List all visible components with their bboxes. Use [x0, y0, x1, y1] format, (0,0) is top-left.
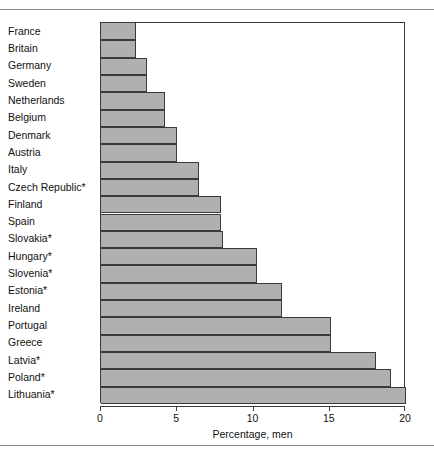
bar [101, 162, 199, 179]
category-label: Spain [8, 215, 88, 227]
x-tick-label: 20 [399, 412, 411, 425]
bar [101, 179, 199, 196]
bar [101, 196, 221, 213]
bar [101, 144, 177, 161]
category-label: Germany [8, 59, 88, 71]
x-tick-label: 5 [173, 412, 179, 425]
category-label: Latvia* [8, 354, 88, 366]
bar [101, 317, 331, 334]
bottom-divider-rule [0, 445, 434, 446]
bar [101, 300, 282, 317]
category-label-column: FranceBritainGermanySwedenNetherlandsBel… [0, 22, 96, 403]
category-label: Estonia* [8, 284, 88, 296]
bar [101, 387, 406, 404]
category-label: Hungary* [8, 250, 88, 262]
category-label: Austria [8, 146, 88, 158]
category-label: Denmark [8, 129, 88, 141]
bar [101, 231, 223, 248]
bar [101, 352, 376, 369]
category-label: Netherlands [8, 94, 88, 106]
bar [101, 75, 147, 92]
bar [101, 127, 177, 144]
bar-chart-figure: FranceBritainGermanySwedenNetherlandsBel… [0, 0, 434, 454]
category-label: Britain [8, 42, 88, 54]
x-tick-label: 10 [247, 412, 259, 425]
category-label: Poland* [8, 371, 88, 383]
bar [101, 248, 257, 265]
top-divider-rule [0, 9, 434, 10]
category-label: Finland [8, 198, 88, 210]
category-label: Czech Republic* [8, 181, 88, 193]
category-label: Slovenia* [8, 267, 88, 279]
bar [101, 23, 136, 40]
x-tick-mark [253, 406, 254, 411]
bar [101, 283, 282, 300]
category-label: Italy [8, 163, 88, 175]
bar [101, 40, 136, 57]
bar [101, 369, 391, 386]
category-label: Portugal [8, 319, 88, 331]
category-label: Ireland [8, 302, 88, 314]
bar [101, 110, 165, 127]
bar [101, 92, 165, 109]
x-tick-label: 0 [97, 412, 103, 425]
bar [101, 58, 147, 75]
bar [101, 335, 331, 352]
x-tick-mark [404, 406, 405, 411]
category-label: Sweden [8, 77, 88, 89]
x-tick-mark [100, 406, 101, 411]
category-label: Belgium [8, 111, 88, 123]
category-label: Lithuania* [8, 388, 88, 400]
x-tick-mark [329, 406, 330, 411]
category-label: Greece [8, 336, 88, 348]
category-label: France [8, 25, 88, 37]
bar [101, 265, 257, 282]
category-label: Slovakia* [8, 232, 88, 244]
x-axis-label: Percentage, men [100, 428, 405, 440]
x-tick-label: 15 [323, 412, 335, 425]
x-tick-mark [176, 406, 177, 411]
plot-area [100, 22, 405, 403]
bar [101, 214, 221, 231]
